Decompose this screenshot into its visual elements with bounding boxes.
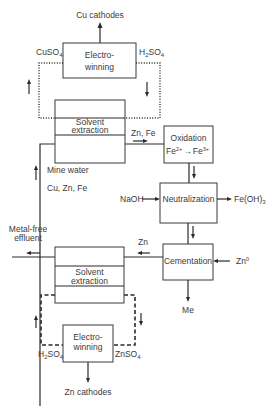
h2so4-label-bottom: H2SO4 bbox=[38, 349, 64, 360]
arrow-up-icon bbox=[98, 22, 103, 43]
me-label: Me bbox=[182, 305, 194, 315]
arrow-down-icon bbox=[191, 226, 195, 239]
h2so4-label-top: H2SO4 bbox=[139, 47, 165, 58]
cu-cathodes-label: Cu cathodes bbox=[76, 10, 124, 20]
svg-text:Neutralization: Neutralization bbox=[163, 194, 215, 204]
cu-electrowinning-box: Electro- winning bbox=[63, 43, 136, 78]
svg-text:extraction: extraction bbox=[72, 125, 109, 135]
mine-water-composition-label: Cu, Zn, Fe bbox=[47, 183, 87, 193]
cuso4-label: CuSO4 bbox=[36, 47, 63, 58]
arrow-down-icon bbox=[192, 166, 196, 179]
arrow-left-icon bbox=[26, 251, 40, 255]
cementation-box: Cementation bbox=[163, 244, 213, 280]
svg-text:winning: winning bbox=[73, 342, 103, 352]
zn-cathodes-label: Zn cathodes bbox=[65, 387, 112, 397]
zn-electrowinning-box: Electro- winning bbox=[63, 325, 113, 362]
neutralization-box: Neutralization bbox=[160, 183, 217, 223]
svg-text:Electro-: Electro- bbox=[73, 332, 102, 342]
mine-water-label: Mine water bbox=[47, 165, 89, 175]
arrow-right-icon bbox=[217, 197, 232, 201]
fe-oxidation-reaction: Fe2+→Fe3+ bbox=[166, 146, 209, 156]
arrow-up-icon bbox=[34, 165, 38, 180]
naoh-label: NaOH bbox=[120, 194, 144, 204]
svg-text:extraction: extraction bbox=[71, 276, 108, 286]
process-flowsheet: Cu cathodes Electro- winning CuSO4 H2SO4… bbox=[0, 0, 278, 406]
zn0-label: Zn0 bbox=[236, 256, 249, 266]
svg-text:Oxidation: Oxidation bbox=[171, 133, 207, 143]
arrow-down-icon bbox=[186, 280, 190, 302]
svg-text:winning: winning bbox=[84, 62, 114, 72]
arrow-up-icon bbox=[34, 315, 38, 328]
arrow-left-icon bbox=[213, 259, 230, 263]
arrow-down-icon bbox=[145, 82, 149, 97]
arrow-right-icon bbox=[133, 139, 148, 143]
zn-solvent-extraction-box: Solvent extraction bbox=[55, 247, 124, 303]
fe-oh-3-label: Fe(OH)3 bbox=[234, 194, 266, 205]
zn-fe-label: Zn, Fe bbox=[131, 128, 156, 138]
oxidation-box: Oxidation Fe2+→Fe3+ bbox=[164, 126, 213, 163]
arrow-down-icon bbox=[86, 362, 90, 383]
svg-text:Electro-: Electro- bbox=[85, 50, 114, 60]
svg-text:Cementation: Cementation bbox=[164, 256, 212, 266]
effluent-label: effluent bbox=[14, 233, 42, 243]
arrow-down-icon bbox=[139, 313, 143, 326]
cu-solvent-extraction-box: Solvent extraction bbox=[55, 100, 125, 163]
arrow-left-icon bbox=[137, 251, 150, 255]
arrow-up-icon bbox=[27, 79, 31, 94]
znso4-label: ZnSO4 bbox=[115, 349, 141, 360]
arrow-right-icon bbox=[142, 197, 160, 201]
zn-label: Zn bbox=[138, 237, 148, 247]
